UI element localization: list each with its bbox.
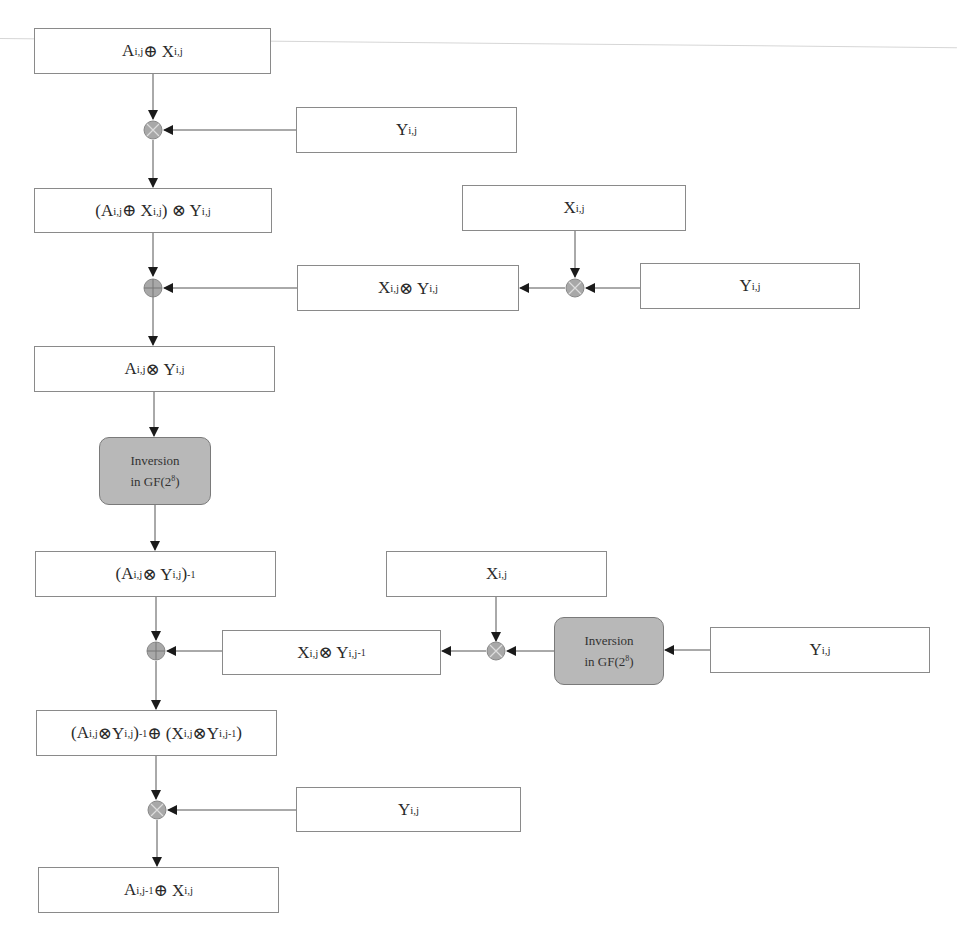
box-result-a-inverse-xor-x: Ai,j-1 ⊕ Xi,j — [38, 867, 279, 913]
box-sum-of-inverses: (Ai,j⊗Yi,j)-1 ⊕ (Xi,j⊗Yi,j-1) — [36, 710, 277, 756]
input-y: Yi,j — [710, 627, 930, 673]
multiply-operator-icon — [486, 641, 506, 661]
box-a-times-y-inverse: (Ai,j ⊗ Yi,j) -1 — [35, 551, 276, 597]
inversion-label-line2: in GF(28) — [130, 470, 179, 491]
multiply-operator-icon — [147, 800, 167, 820]
box-a-xor-x: Ai,j ⊕ Xi,j — [34, 28, 271, 74]
inversion-label-line1: Inversion — [584, 632, 633, 650]
multiply-operator-icon — [565, 278, 585, 298]
input-x: Xi,j — [462, 185, 686, 231]
inversion-label-line1: Inversion — [130, 452, 179, 470]
multiply-operator-icon — [143, 120, 163, 140]
inversion-block: Inversion in GF(28) — [554, 617, 664, 685]
input-y: Yi,j — [296, 787, 521, 832]
input-x: Xi,j — [386, 551, 607, 597]
xor-operator-icon — [146, 641, 166, 661]
box-a-times-y: Ai,j ⊗ Yi,j — [34, 346, 275, 392]
box-a-xor-x-times-y: (Ai,j ⊕ Xi,j) ⊗ Yi,j — [34, 188, 272, 233]
box-x-times-y-inverse: Xi,j ⊗ Yi,j-1 — [222, 630, 441, 675]
inversion-block: Inversion in GF(28) — [99, 437, 211, 505]
input-y: Yi,j — [296, 107, 517, 153]
input-y: Yi,j — [640, 263, 860, 309]
xor-operator-icon — [143, 278, 163, 298]
box-x-times-y: Xi,j ⊗ Yi,j — [297, 265, 519, 311]
inversion-label-line2: in GF(28) — [584, 650, 633, 671]
